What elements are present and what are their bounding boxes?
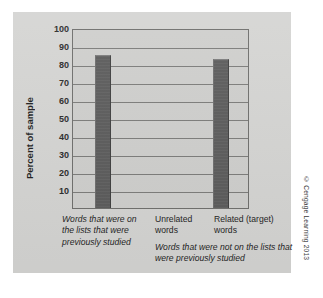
y-axis-tick-labels: 100908070605040302010	[33, 29, 69, 209]
bar-0	[95, 55, 111, 208]
gridline-90	[73, 48, 248, 49]
figure-card: Percent of sample 100908070605040302010 …	[13, 12, 291, 273]
bar-texture	[214, 60, 228, 208]
y-tick-label-50: 50	[35, 115, 69, 124]
y-tick-label-20: 20	[35, 169, 69, 178]
y-tick-label-10: 10	[35, 187, 69, 196]
x-category-label-0: Words that were on the lists that were p…	[62, 214, 148, 248]
y-tick-label-30: 30	[35, 151, 69, 160]
y-tick-label-60: 60	[35, 97, 69, 106]
x-axis-group-caption: Words that were not on the lists that we…	[155, 242, 298, 265]
x-category-label-1: Unrelated words	[155, 214, 215, 237]
bar-2	[213, 59, 229, 208]
plot-area	[72, 29, 249, 209]
x-category-label-2: Related (target) words	[214, 214, 294, 237]
y-tick-label-70: 70	[35, 79, 69, 88]
bar-texture	[96, 56, 110, 208]
x-axis-category-labels: Words that were on the lists that were p…	[62, 214, 287, 272]
y-tick-label-100: 100	[35, 25, 69, 34]
y-tick-label-40: 40	[35, 133, 69, 142]
y-tick-label-90: 90	[35, 43, 69, 52]
y-tick-label-80: 80	[35, 61, 69, 70]
copyright-credit: © Cengage Learning 2013	[299, 176, 310, 276]
